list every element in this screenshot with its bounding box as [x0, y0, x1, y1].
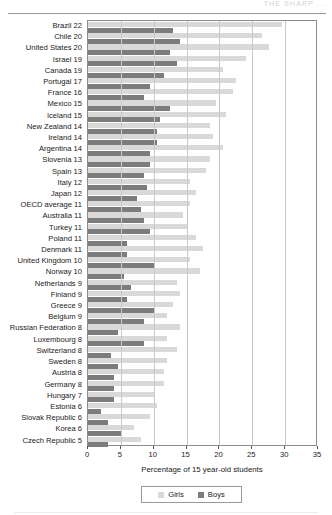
bar-row	[88, 323, 316, 334]
bar-row	[88, 234, 316, 245]
category-label: New Zealand 14	[0, 121, 84, 132]
bar-girls	[88, 425, 134, 430]
bar-girls	[88, 89, 233, 94]
bar-girls	[88, 33, 262, 38]
category-label: Chile 20	[0, 31, 84, 42]
bar-row	[88, 122, 316, 133]
bar-row	[88, 245, 316, 256]
category-label: Sweden 8	[0, 356, 84, 367]
page-bottom-divider	[14, 512, 318, 513]
x-axis-tick-label: 35	[313, 450, 321, 459]
bar-girls	[88, 324, 180, 329]
x-axis-tick	[251, 446, 252, 449]
bar-girls	[88, 369, 164, 374]
header-divider	[8, 13, 326, 14]
bar-row	[88, 155, 316, 166]
bar-girls	[88, 313, 167, 318]
bar-row	[88, 346, 316, 357]
bar-girls	[88, 156, 210, 161]
bar-rows	[88, 21, 316, 445]
bar-row	[88, 111, 316, 122]
bar-row	[88, 66, 316, 77]
bar-girls	[88, 224, 187, 229]
bar-row	[88, 368, 316, 379]
bar-row	[88, 88, 316, 99]
category-label: Australia 11	[0, 210, 84, 221]
bar-row	[88, 32, 316, 43]
x-axis-tick	[87, 446, 88, 449]
bar-row	[88, 424, 316, 435]
category-label: Spain 13	[0, 166, 84, 177]
x-axis-tick	[153, 446, 154, 449]
bar-row	[88, 357, 316, 368]
category-label: Greece 9	[0, 300, 84, 311]
bar-girls	[88, 67, 223, 72]
bar-row	[88, 21, 316, 32]
bar-row	[88, 301, 316, 312]
bar-row	[88, 144, 316, 155]
category-axis-labels: Brazil 22Chile 20United States 20Israel …	[0, 20, 84, 446]
bar-girls	[88, 44, 269, 49]
bar-row	[88, 167, 316, 178]
gridline	[121, 21, 122, 445]
category-label: Hungary 7	[0, 390, 84, 401]
bar-row	[88, 99, 316, 110]
legend-swatch-girls-icon	[158, 492, 164, 498]
x-axis-tick-label: 10	[148, 450, 156, 459]
category-label: Estonia 6	[0, 401, 84, 412]
x-axis-tick	[120, 446, 121, 449]
legend-label-girls: Girls	[168, 490, 184, 499]
running-header-text: THE SHARP ...	[264, 0, 326, 7]
bar-row	[88, 391, 316, 402]
bar-girls	[88, 112, 226, 117]
category-label: Korea 6	[0, 423, 84, 434]
bar-row	[88, 256, 316, 267]
bar-row	[88, 279, 316, 290]
category-label: Italy 12	[0, 177, 84, 188]
value-axis: 05101520253035	[87, 446, 317, 464]
category-label: OECD average 11	[0, 199, 84, 210]
bar-girls	[88, 358, 167, 363]
bar-girls	[88, 56, 246, 61]
category-label: Luxembourg 8	[0, 334, 84, 345]
category-label: Norway 10	[0, 266, 84, 277]
bar-girls	[88, 168, 206, 173]
legend-label-boys: Boys	[208, 490, 225, 499]
x-axis-tick-label: 0	[85, 450, 89, 459]
chart-legend: Girls Boys	[141, 486, 242, 503]
x-axis-tick-label: 5	[118, 450, 122, 459]
legend-item-girls: Girls	[158, 490, 184, 499]
category-label: Poland 11	[0, 233, 84, 244]
category-label: Portugal 17	[0, 76, 84, 87]
gridline	[285, 21, 286, 445]
x-axis-tick-label: 20	[214, 450, 222, 459]
x-axis-tick	[317, 446, 318, 449]
bar-girls	[88, 437, 141, 442]
gridline	[219, 21, 220, 445]
bar-girls	[88, 212, 183, 217]
bar-girls	[88, 403, 157, 408]
bar-girls	[88, 280, 177, 285]
chart-page: THE SHARP ... Brazil 22Chile 20United St…	[0, 0, 332, 515]
bar-row	[88, 380, 316, 391]
bar-row	[88, 223, 316, 234]
x-axis-tick	[186, 446, 187, 449]
legend-swatch-boys-icon	[198, 492, 204, 498]
category-label: Austria 8	[0, 367, 84, 378]
bar-girls	[88, 134, 213, 139]
bar-girls	[88, 100, 216, 105]
category-label: Turkey 11	[0, 222, 84, 233]
bar-girls	[88, 291, 180, 296]
bar-girls	[88, 201, 190, 206]
bar-girls	[88, 381, 164, 386]
page-running-header: THE SHARP ...	[0, 0, 332, 16]
category-label: United States 20	[0, 42, 84, 53]
category-label: Mexico 15	[0, 98, 84, 109]
x-axis-tick	[218, 446, 219, 449]
bar-row	[88, 178, 316, 189]
category-label: Ireland 14	[0, 132, 84, 143]
bar-row	[88, 335, 316, 346]
bar-girls	[88, 145, 223, 150]
bar-girls	[88, 336, 167, 341]
bar-row	[88, 55, 316, 66]
